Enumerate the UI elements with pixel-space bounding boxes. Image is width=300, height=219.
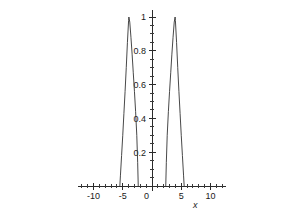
curve-right-bump — [166, 17, 184, 186]
chart-container: -10-50510x0.20.40.60.81 — [0, 0, 300, 219]
x-axis-tick-label: -10 — [87, 191, 100, 201]
x-axis-tick-label: -5 — [119, 191, 127, 201]
origin-tick-label: 0 — [144, 191, 149, 201]
x-axis-tick-label: 5 — [179, 191, 184, 201]
curve-left-bump — [120, 17, 138, 186]
y-axis-tick-label: 1 — [141, 12, 146, 22]
y-axis-tick-label: 0.2 — [133, 148, 146, 158]
plot-canvas: -10-50510x0.20.40.60.81 — [0, 0, 300, 219]
x-axis-label: x — [192, 200, 198, 210]
y-axis-tick-label: 0.8 — [133, 46, 146, 56]
y-axis-tick-label: 0.6 — [133, 80, 146, 90]
x-axis-tick-label: 10 — [205, 191, 215, 201]
